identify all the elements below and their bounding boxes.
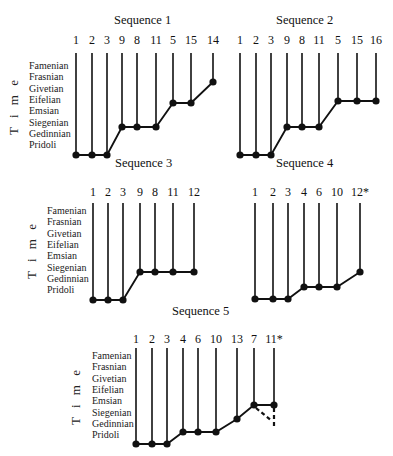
taxon-label: 15 bbox=[351, 33, 363, 47]
taxon-label: 3 bbox=[104, 33, 110, 47]
taxon-label: 2 bbox=[253, 33, 259, 47]
stage-label: Siegenian bbox=[47, 262, 86, 273]
time-axis-label: T i m e bbox=[24, 221, 39, 279]
taxon-label: 10 bbox=[331, 185, 343, 199]
taxon-label: 3 bbox=[120, 185, 126, 199]
node-dot bbox=[236, 151, 243, 158]
cladogram-backbone bbox=[136, 405, 274, 444]
node-dot bbox=[315, 283, 322, 290]
node-dot bbox=[119, 296, 126, 303]
sequence-panel-2: Sequence 2123981151516 bbox=[236, 13, 382, 159]
sequence-panel-4: Sequence 4123461012* bbox=[251, 156, 369, 303]
taxon-label: 12 bbox=[188, 185, 200, 199]
node-dot bbox=[152, 123, 159, 130]
node-dot bbox=[89, 296, 96, 303]
sequence-panel-5: Sequence 5T i m eFamenianFrasnianGivetia… bbox=[68, 304, 283, 448]
stage-label: Eifelian bbox=[29, 94, 61, 105]
taxon-label: 10 bbox=[210, 332, 222, 346]
node-dot bbox=[169, 99, 176, 106]
taxon-label: 12* bbox=[351, 185, 369, 199]
taxon-label: 2 bbox=[270, 185, 276, 199]
taxon-label: 14 bbox=[207, 33, 219, 47]
taxon-label: 2 bbox=[149, 332, 155, 346]
node-dot bbox=[179, 428, 186, 435]
taxon-label: 11 bbox=[167, 185, 179, 199]
taxon-label: 8 bbox=[134, 33, 140, 47]
node-dot bbox=[270, 401, 277, 408]
stage-label: Frasnian bbox=[29, 71, 63, 82]
stage-label: Eifelian bbox=[92, 384, 124, 395]
taxon-label: 4 bbox=[180, 332, 186, 346]
node-dot bbox=[269, 295, 276, 302]
taxon-label: 2 bbox=[105, 185, 111, 199]
node-dot bbox=[103, 151, 110, 158]
cladogram-backbone bbox=[240, 101, 376, 155]
node-dot bbox=[252, 151, 259, 158]
node-dot bbox=[356, 268, 363, 275]
node-dot bbox=[163, 440, 170, 447]
taxon-label: 9 bbox=[284, 33, 290, 47]
stage-label: Emsian bbox=[47, 250, 77, 261]
taxon-label: 3 bbox=[268, 33, 274, 47]
node-dot bbox=[151, 268, 158, 275]
stage-label: Emsian bbox=[92, 395, 122, 406]
sequence-title: Sequence 3 bbox=[115, 156, 172, 170]
taxon-label: 13 bbox=[231, 332, 243, 346]
stage-label: Famenian bbox=[92, 350, 131, 361]
stage-label: Siegenian bbox=[92, 407, 131, 418]
node-dot bbox=[251, 295, 258, 302]
taxon-label: 11 bbox=[313, 33, 325, 47]
node-dot bbox=[300, 283, 307, 290]
taxon-label: 11* bbox=[265, 332, 283, 346]
node-dot bbox=[372, 97, 379, 104]
dashed-uncertain-link bbox=[256, 408, 272, 421]
taxon-label: 11 bbox=[150, 33, 162, 47]
sequence-title: Sequence 5 bbox=[172, 304, 229, 318]
node-dot bbox=[136, 268, 143, 275]
node-dot bbox=[353, 97, 360, 104]
node-dot bbox=[334, 97, 341, 104]
node-dot bbox=[88, 151, 95, 158]
sequence-panel-1: Sequence 1T i m eFamenianFrasnianGivetia… bbox=[6, 13, 219, 159]
node-dot bbox=[169, 268, 176, 275]
taxon-label: 1 bbox=[73, 33, 79, 47]
node-dot bbox=[104, 296, 111, 303]
taxon-label: 8 bbox=[299, 33, 305, 47]
node-dot bbox=[148, 440, 155, 447]
stage-label: Siegenian bbox=[29, 117, 68, 128]
node-dot bbox=[267, 151, 274, 158]
cladogram-backbone bbox=[255, 272, 360, 299]
taxon-label: 2 bbox=[89, 33, 95, 47]
stage-label: Gedinnian bbox=[29, 128, 71, 139]
node-dot bbox=[283, 123, 290, 130]
node-dot bbox=[209, 78, 216, 85]
node-dot bbox=[187, 99, 194, 106]
node-dot bbox=[118, 123, 125, 130]
taxon-label: 3 bbox=[164, 332, 170, 346]
taxon-label: 1 bbox=[252, 185, 258, 199]
stage-label: Gedinnian bbox=[92, 418, 134, 429]
taxon-label: 1 bbox=[90, 185, 96, 199]
stage-label: Pridoli bbox=[47, 284, 74, 295]
node-dot bbox=[190, 268, 197, 275]
node-dot bbox=[315, 123, 322, 130]
stage-label: Frasnian bbox=[92, 361, 126, 372]
taxon-label: 6 bbox=[316, 185, 322, 199]
node-dot bbox=[333, 283, 340, 290]
stage-label: Gedinnian bbox=[47, 273, 89, 284]
stage-label: Famenian bbox=[29, 60, 68, 71]
taxon-label: 15 bbox=[185, 33, 197, 47]
taxon-label: 16 bbox=[370, 33, 382, 47]
node-dot bbox=[284, 295, 291, 302]
node-dot bbox=[298, 123, 305, 130]
stage-label: Emsian bbox=[29, 105, 59, 116]
stage-label: Givetian bbox=[47, 228, 81, 239]
cladogram-backbone bbox=[76, 82, 213, 155]
taxon-label: 5 bbox=[335, 33, 341, 47]
sequence-title: Sequence 4 bbox=[276, 156, 334, 170]
node-dot bbox=[132, 440, 139, 447]
phylogenetic-sequences-figure: Sequence 1T i m eFamenianFrasnianGivetia… bbox=[0, 0, 393, 456]
node-dot bbox=[212, 428, 219, 435]
node-dot bbox=[72, 151, 79, 158]
taxon-label: 7 bbox=[251, 332, 257, 346]
